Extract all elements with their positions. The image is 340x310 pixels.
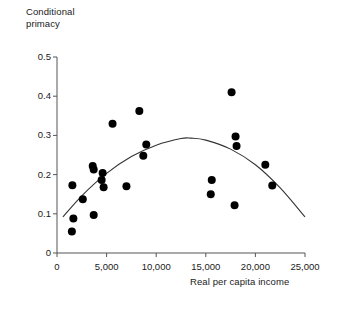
data-point (135, 107, 143, 115)
data-point (90, 166, 98, 174)
data-point (231, 201, 239, 209)
data-point (98, 176, 106, 184)
y-tick-label: 0.5 (11, 52, 51, 62)
data-point (139, 152, 147, 160)
y-tick-label: 0.1 (11, 209, 51, 219)
axis-lines (57, 57, 305, 253)
data-point (233, 142, 241, 150)
data-points (68, 88, 276, 235)
data-point (109, 120, 117, 128)
scatter-plot-figure: Conditional primacy Real per capita inco… (0, 0, 340, 310)
data-point (100, 183, 108, 191)
y-tick-label: 0.4 (11, 91, 51, 101)
data-point (68, 227, 76, 235)
y-tick-label: 0.2 (11, 170, 51, 180)
data-point (79, 195, 87, 203)
data-point (261, 161, 269, 169)
data-point (99, 169, 107, 177)
data-point (232, 133, 240, 141)
data-point (208, 176, 216, 184)
y-tick-label: 0 (11, 248, 51, 258)
x-tick-label: 25,000 (275, 262, 335, 272)
data-point (122, 182, 130, 190)
data-point (207, 190, 215, 198)
tick-marks (53, 57, 305, 257)
data-point (228, 88, 236, 96)
data-point (142, 140, 150, 148)
data-point (69, 215, 77, 223)
data-point (90, 211, 98, 219)
y-tick-label: 0.3 (11, 130, 51, 140)
data-point (268, 182, 276, 190)
data-point (68, 181, 76, 189)
